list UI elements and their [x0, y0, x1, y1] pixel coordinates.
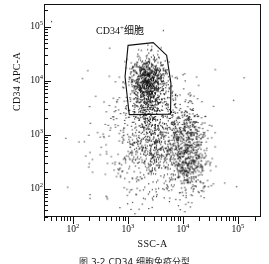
x-tick-label-exponent-0: 2: [76, 222, 79, 229]
x-tick-minor-9e2: [125, 217, 126, 221]
y-tick-minor-9e3: [44, 83, 48, 84]
y-tick-label-mantissa-1: 10: [30, 129, 40, 139]
y-tick-minor-2e3: [44, 118, 48, 119]
y-tick-minor-6e3: [44, 93, 48, 94]
x-tick-label-1: 103: [108, 225, 148, 235]
x-tick-label-0: 102: [53, 225, 93, 235]
x-tick-major-1e2: [73, 217, 74, 224]
y-axis-title: CD34 APC-A: [11, 32, 22, 132]
x-tick-minor-2e5: [255, 217, 256, 221]
flow-cytometry-figure: 102103104105 102103104105 CD34 APC-A SSC…: [0, 0, 269, 264]
y-tick-minor-6e1: [44, 201, 48, 202]
x-tick-label-mantissa-2: 10: [176, 224, 186, 234]
gate-label: CD34+细胞: [96, 26, 144, 36]
x-tick-minor-8e1: [67, 217, 68, 221]
y-tick-minor-8e2: [44, 140, 48, 141]
x-tick-minor-7e1: [64, 217, 65, 221]
x-tick-minor-4e4: [216, 217, 217, 221]
x-tick-minor-6e2: [116, 217, 117, 221]
x-tick-label-exponent-3: 5: [241, 222, 244, 229]
x-tick-minor-9e3: [180, 217, 181, 221]
x-tick-major-1e5: [238, 217, 239, 224]
x-tick-minor-5e1: [56, 217, 57, 221]
y-tick-label-exponent-3: 5: [40, 18, 43, 25]
gate-label-base: CD34: [96, 25, 120, 36]
y-tick-label-mantissa-3: 10: [30, 21, 40, 31]
x-tick-label-mantissa-3: 10: [232, 224, 242, 234]
x-tick-minor-5e4: [221, 217, 222, 221]
x-tick-minor-9e1: [70, 217, 71, 221]
x-tick-minor-2e3: [144, 217, 145, 221]
y-tick-label-exponent-2: 4: [40, 73, 43, 80]
x-tick-minor-7e4: [229, 217, 230, 221]
y-tick-minor-2e2: [44, 172, 48, 173]
y-tick-minor-3e4: [44, 55, 48, 56]
y-tick-label-1: 103: [30, 130, 43, 140]
y-tick-minor-7e2: [44, 143, 48, 144]
y-tick-major-1e3: [44, 135, 51, 136]
x-tick-minor-4e2: [106, 217, 107, 221]
y-tick-minor-3e2: [44, 163, 48, 164]
gate-label-suffix: 细胞: [124, 25, 144, 36]
y-tick-label-mantissa-0: 10: [30, 183, 40, 193]
x-tick-minor-3e2: [99, 217, 100, 221]
x-tick-minor-8e3: [178, 217, 179, 221]
x-tick-minor-7e2: [119, 217, 120, 221]
x-tick-minor-3e1: [44, 217, 45, 221]
x-tick-minor-6e1: [61, 217, 62, 221]
y-tick-minor-2e5: [44, 10, 48, 11]
y-tick-minor-2e4: [44, 64, 48, 65]
x-tick-label-2: 104: [163, 225, 203, 235]
y-tick-major-1e5: [44, 27, 51, 28]
y-tick-label-3: 105: [30, 22, 43, 32]
x-tick-minor-8e2: [123, 217, 124, 221]
x-tick-minor-6e4: [226, 217, 227, 221]
x-tick-minor-2e4: [199, 217, 200, 221]
y-tick-minor-5e4: [44, 43, 48, 44]
y-tick-minor-6e2: [44, 147, 48, 148]
y-tick-major-1e4: [44, 81, 51, 82]
x-tick-major-1e3: [128, 217, 129, 224]
y-tick-minor-6e4: [44, 39, 48, 40]
y-tick-minor-8e1: [44, 194, 48, 195]
figure-caption: 图 3-2 CD34 细胞免疫分型: [0, 257, 269, 264]
x-tick-minor-6e3: [171, 217, 172, 221]
y-tick-label-exponent-1: 3: [40, 127, 43, 134]
x-tick-minor-3e3: [154, 217, 155, 221]
y-tick-minor-3e3: [44, 109, 48, 110]
y-tick-minor-7e1: [44, 197, 48, 198]
x-tick-minor-9e4: [235, 217, 236, 221]
x-tick-minor-2e2: [89, 217, 90, 221]
x-tick-label-3: 105: [218, 225, 258, 235]
x-tick-minor-5e3: [166, 217, 167, 221]
x-tick-minor-3e4: [209, 217, 210, 221]
y-tick-minor-9e1: [44, 191, 48, 192]
scatter-plot-area: [44, 4, 261, 217]
y-tick-minor-8e3: [44, 86, 48, 87]
y-tick-minor-9e4: [44, 29, 48, 30]
y-tick-label-exponent-0: 2: [40, 181, 43, 188]
x-tick-minor-5e2: [111, 217, 112, 221]
y-tick-minor-4e1: [44, 210, 48, 211]
scatter-points-layer: [45, 5, 260, 216]
x-tick-minor-4e3: [161, 217, 162, 221]
y-tick-minor-8e4: [44, 32, 48, 33]
y-tick-minor-7e4: [44, 35, 48, 36]
y-tick-label-2: 104: [30, 76, 43, 86]
x-tick-label-mantissa-1: 10: [121, 224, 131, 234]
x-tick-major-1e4: [183, 217, 184, 224]
x-tick-label-exponent-1: 3: [131, 222, 134, 229]
y-tick-minor-7e3: [44, 89, 48, 90]
y-tick-minor-5e2: [44, 151, 48, 152]
y-tick-minor-5e3: [44, 97, 48, 98]
x-axis-title: SSC-A: [44, 238, 261, 249]
y-tick-minor-9e2: [44, 137, 48, 138]
x-tick-minor-7e3: [174, 217, 175, 221]
y-tick-minor-4e4: [44, 48, 48, 49]
y-tick-label-mantissa-2: 10: [30, 75, 40, 85]
x-tick-label-exponent-2: 4: [186, 222, 189, 229]
y-tick-label-0: 102: [30, 184, 43, 194]
y-tick-major-1e2: [44, 189, 51, 190]
y-tick-minor-4e2: [44, 156, 48, 157]
x-tick-minor-8e4: [233, 217, 234, 221]
